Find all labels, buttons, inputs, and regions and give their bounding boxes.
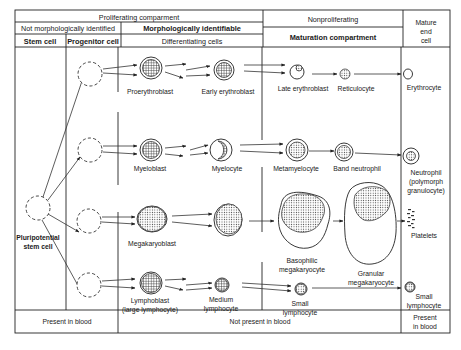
progenitor-megakaryocytic-icon (77, 209, 101, 233)
progenitor-granulocytic-icon (78, 138, 102, 162)
label-myeloblast: Myeloblast (134, 165, 167, 173)
label-medium-2: lymphocyte (204, 305, 239, 313)
label-late-erythroblast: Late erythroblast (278, 85, 329, 93)
myelocyte-icon (210, 139, 232, 161)
basophilic-megakaryocyte-icon (278, 192, 329, 248)
platelets-icon (407, 209, 415, 228)
reticulocyte-icon (340, 69, 350, 79)
label-mature-small-2: lymphocyte (407, 302, 442, 310)
header-progenitor-cell: Progenitor cell (67, 37, 119, 46)
myeloblast-icon (140, 139, 162, 161)
header-stem-cell: Stem cell (24, 37, 56, 46)
footer-not-present: Not present in blood (230, 318, 291, 326)
label-mature-small-1: Small (416, 293, 433, 300)
footer-present-right-2: in blood (413, 323, 437, 330)
progenitor-erythroid-icon (78, 62, 102, 86)
footer-present-left: Present in blood (42, 318, 91, 325)
neutrophil-icon (403, 148, 419, 164)
label-erythrocyte: Erythrocyte (407, 84, 442, 92)
metamyelocyte-icon (286, 139, 308, 161)
label-neutrophil-3: granulocyte) (407, 187, 444, 195)
label-medium-1: Medium (209, 296, 234, 303)
progenitor-lymphoid-icon (77, 273, 101, 297)
header-mature-3: cell (421, 37, 432, 44)
megakaryoblast-icon (137, 206, 167, 232)
late-erythroblast-icon (290, 65, 304, 79)
label-reticulocyte: Reticulocyte (337, 85, 374, 93)
mature-small-lymphocyte-icon (405, 282, 415, 292)
label-small-1: Small (292, 300, 309, 307)
erythrocyte-icon (404, 69, 413, 79)
megakaryocyte-large-icon (214, 204, 242, 236)
footer-present-right-1: Present (413, 314, 437, 321)
label-early-erythroblast: Early erythroblast (202, 88, 255, 96)
label-neutrophil-1: Neutrophil (411, 169, 442, 177)
label-granular-1: Granular (358, 270, 385, 277)
header-mature-2: end (420, 28, 432, 35)
label-megakaryoblast: Megakaryoblast (128, 240, 176, 248)
label-basophilic-2: megakaryocyte (279, 266, 325, 274)
proerythroblast-icon (140, 57, 162, 79)
hematopoiesis-diagram: Proliferating comparment Nonproliferatin… (0, 0, 461, 350)
header-morph: Morphologically identifiable (143, 24, 241, 33)
label-lymphoblast-2: (large lymphocyte) (122, 306, 178, 314)
label-neutrophil-2: (polymorph (409, 178, 443, 186)
label-basophilic-1: Basophilic (287, 257, 319, 265)
label-granular-2: megakaryocyte (348, 279, 394, 287)
stem-cell-icon (26, 196, 50, 220)
header-proliferating: Proliferating comparment (99, 13, 179, 22)
stem-label-2: stem cell (23, 243, 52, 250)
medium-lymphocyte-icon (215, 278, 229, 292)
header-maturation: Maturation compartment (290, 33, 377, 42)
header-nonproliferating: Nonproliferating (308, 15, 359, 24)
label-band-neutrophil: Band neutrophil (333, 165, 381, 173)
header-differentiating: Differentiating cells (162, 37, 223, 46)
lymphoblast-icon (140, 272, 162, 294)
granular-megakaryocyte-icon (345, 183, 397, 265)
early-erythroblast-icon (214, 60, 234, 80)
header-not-morph: Not morphologically identified (21, 24, 115, 33)
header-mature-1: Mature (415, 19, 436, 26)
label-small-2: lymphocyte (283, 309, 318, 317)
label-myelocyte: Myelocyte (212, 165, 243, 173)
label-platelets: Platelets (411, 232, 438, 239)
label-proerythroblast: Proerythroblast (127, 88, 173, 96)
small-lymphocyte-icon (295, 283, 307, 295)
band-neutrophil-icon (335, 143, 353, 161)
label-lymphoblast-1: Lymphoblast (131, 297, 169, 305)
label-metamyelocyte: Metamyelocyte (273, 165, 319, 173)
